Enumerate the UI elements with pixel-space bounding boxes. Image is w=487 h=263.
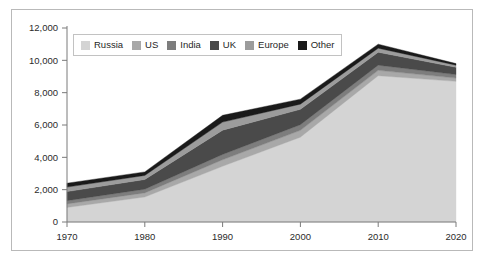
legend-item-label: Russia bbox=[94, 40, 123, 50]
legend-item-label: UK bbox=[223, 40, 236, 50]
x-tick-label: 2020 bbox=[445, 231, 466, 242]
y-tick-label: 4,000 bbox=[34, 152, 58, 163]
chart-figure: 02,0004,0006,0008,00010,00012,0001970198… bbox=[0, 0, 487, 263]
y-tick-label: 6,000 bbox=[34, 119, 58, 130]
x-tick-label: 2000 bbox=[290, 231, 311, 242]
chart-legend: RussiaUSIndiaUKEuropeOther bbox=[73, 34, 342, 56]
y-tick-label: 10,000 bbox=[29, 55, 58, 66]
legend-item-europe[interactable]: Europe bbox=[245, 40, 289, 50]
legend-item-label: Other bbox=[311, 40, 335, 50]
legend-swatch-icon bbox=[298, 41, 307, 50]
legend-item-uk[interactable]: UK bbox=[210, 40, 236, 50]
y-tick-label: 2,000 bbox=[34, 184, 58, 195]
legend-swatch-icon bbox=[245, 41, 254, 50]
legend-item-india[interactable]: India bbox=[167, 40, 201, 50]
x-tick-label: 1970 bbox=[56, 231, 77, 242]
x-tick-label: 1980 bbox=[134, 231, 155, 242]
y-tick-label: 8,000 bbox=[34, 87, 58, 98]
legend-swatch-icon bbox=[81, 41, 90, 50]
legend-item-us[interactable]: US bbox=[132, 40, 158, 50]
x-tick-label: 1990 bbox=[212, 231, 233, 242]
x-tick-label: 2010 bbox=[368, 231, 389, 242]
legend-swatch-icon bbox=[210, 41, 219, 50]
legend-item-label: US bbox=[145, 40, 158, 50]
legend-item-label: Europe bbox=[258, 40, 289, 50]
legend-swatch-icon bbox=[132, 41, 141, 50]
legend-item-russia[interactable]: Russia bbox=[81, 40, 123, 50]
y-tick-label: 0 bbox=[53, 216, 58, 227]
legend-item-label: India bbox=[180, 40, 201, 50]
legend-item-other[interactable]: Other bbox=[298, 40, 335, 50]
legend-swatch-icon bbox=[167, 41, 176, 50]
y-tick-label: 12,000 bbox=[29, 22, 58, 33]
